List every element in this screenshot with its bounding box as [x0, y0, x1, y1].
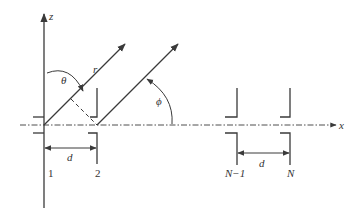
ray-r-label: r: [93, 63, 98, 75]
ray-1: [44, 44, 125, 125]
element-label-2: 2: [95, 167, 101, 179]
z-axis-label: z: [48, 10, 54, 22]
element-label-n: N: [286, 167, 295, 179]
element-label-1: 1: [48, 167, 54, 179]
theta-label: θ: [61, 74, 67, 86]
array-diagram: z x r θ ϕ d d: [0, 0, 359, 223]
phi-label: ϕ: [156, 95, 162, 107]
element-label-n-minus-1: N−1: [224, 167, 245, 179]
spacing-d-label-1: d: [67, 151, 73, 163]
x-axis-label: x: [338, 119, 344, 131]
element-n-minus-1: [225, 88, 237, 165]
element-2: [88, 88, 97, 164]
spacing-d-label-n: d: [259, 157, 265, 169]
ray-2: [97, 44, 178, 125]
path-difference-dashed-line: [71, 99, 97, 125]
